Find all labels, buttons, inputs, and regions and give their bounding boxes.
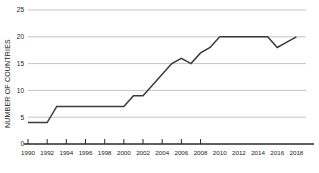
x-tick-label: 1996 (79, 149, 93, 156)
y-axis-title: NUMBER OF COUNTRIES (4, 39, 11, 128)
chart-container: 0510152025 19901992199419961998200020022… (0, 0, 319, 173)
y-tick-label: 10 (17, 87, 25, 94)
data-series-line (28, 37, 296, 123)
gridlines (28, 10, 306, 117)
x-tick-label: 1994 (59, 149, 73, 156)
x-tick-label: 1992 (40, 149, 54, 156)
chart-svg: 0510152025 19901992199419961998200020022… (0, 0, 319, 173)
x-tick-label: 2014 (251, 149, 265, 156)
y-tick-label: 25 (17, 6, 25, 13)
x-tick-label: 1998 (98, 149, 112, 156)
x-tick-label: 1990 (21, 149, 35, 156)
x-tick-label: 2002 (136, 149, 150, 156)
x-tick-label: 2018 (290, 149, 304, 156)
x-tick-label: 2016 (270, 149, 284, 156)
series-polyline (28, 37, 296, 123)
x-tick-marks (28, 139, 201, 144)
y-tick-labels: 0510152025 (17, 6, 25, 147)
x-tick-label: 2004 (155, 149, 169, 156)
x-tick-labels: 1990199219941996199820002002200420062008… (21, 149, 304, 156)
y-tick-label: 5 (20, 114, 24, 121)
y-tick-label: 15 (17, 60, 25, 67)
y-axis-title-text: NUMBER OF COUNTRIES (4, 39, 11, 128)
x-tick-label: 2000 (117, 149, 131, 156)
x-tick-label: 2012 (232, 149, 246, 156)
line-chart-figure: 0510152025 19901992199419961998200020022… (0, 0, 319, 173)
x-tick-label: 2008 (194, 149, 208, 156)
y-tick-label: 20 (17, 33, 25, 40)
x-tick-label: 2006 (174, 149, 188, 156)
x-tick-label: 2010 (213, 149, 227, 156)
y-tick-label: 0 (20, 140, 24, 147)
